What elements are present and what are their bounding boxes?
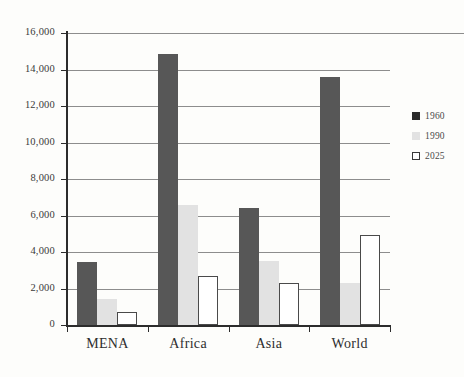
x-axis-category-label: MENA xyxy=(67,336,148,352)
bar xyxy=(360,235,380,325)
legend-item-label: 1960 xyxy=(425,111,445,121)
bar xyxy=(117,312,137,325)
bar xyxy=(97,299,117,325)
y-axis-tick-label: 14,000 xyxy=(0,63,55,74)
bar xyxy=(158,54,178,325)
legend-swatch-icon xyxy=(412,112,420,120)
bar xyxy=(77,262,97,325)
legend-item: 2025 xyxy=(412,146,445,166)
x-axis-tick-mark xyxy=(67,325,68,332)
y-axis-tick-label: 6,000 xyxy=(0,209,55,220)
x-axis-category-label: Africa xyxy=(148,336,229,352)
y-axis-tick-label: 12,000 xyxy=(0,99,55,110)
x-axis-category-label: World xyxy=(309,336,390,352)
plot-area xyxy=(67,33,390,325)
y-axis-tick-label: 4,000 xyxy=(0,245,55,256)
y-axis-tick-label: 16,000 xyxy=(0,26,55,37)
y-axis-tick-label: 10,000 xyxy=(0,136,55,147)
x-axis-tick-mark xyxy=(148,325,149,332)
bar-chart: 02,0004,0006,0008,00010,00012,00014,0001… xyxy=(0,0,464,377)
bar xyxy=(279,283,299,325)
legend-item: 1960 xyxy=(412,106,445,126)
legend-swatch-icon xyxy=(412,132,420,140)
bar xyxy=(340,283,360,325)
bar xyxy=(198,276,218,325)
y-axis-tick-label: 2,000 xyxy=(0,282,55,293)
x-axis-category-label: Asia xyxy=(229,336,310,352)
bar xyxy=(320,77,340,325)
legend-swatch-icon xyxy=(412,152,420,160)
y-axis-tick-label: 8,000 xyxy=(0,172,55,183)
chart-legend: 196019902025 xyxy=(412,106,445,166)
bar xyxy=(178,205,198,325)
x-axis-tick-mark xyxy=(390,325,391,332)
bar xyxy=(259,261,279,325)
y-axis-tick-label: 0 xyxy=(0,318,55,329)
x-axis-tick-mark xyxy=(309,325,310,332)
legend-item-label: 2025 xyxy=(425,151,445,161)
legend-item-label: 1990 xyxy=(425,131,445,141)
legend-item: 1990 xyxy=(412,126,445,146)
bar xyxy=(239,208,259,325)
x-axis-tick-mark xyxy=(229,325,230,332)
